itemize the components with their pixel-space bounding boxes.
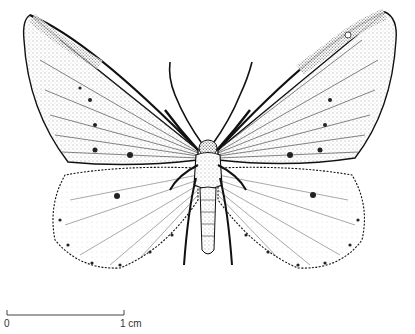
- left-forewing: [24, 15, 198, 165]
- scale-end-label: 1 cm: [120, 318, 142, 329]
- right-forewing: [218, 12, 396, 164]
- scale-start-label: 0: [4, 318, 10, 329]
- moth-illustration: [0, 0, 415, 334]
- scale-bar: 0 1 cm: [0, 300, 160, 334]
